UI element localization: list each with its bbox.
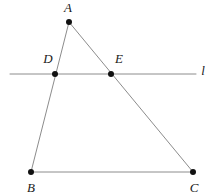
point-e-dot (108, 71, 114, 77)
point-b-dot (28, 169, 34, 175)
point-c-dot (190, 169, 196, 175)
geometry-figure: A B C D E l (0, 0, 214, 196)
point-a-dot (66, 19, 72, 25)
point-d-dot (52, 71, 58, 77)
segment-ac (69, 22, 193, 172)
label-point-e: E (114, 51, 123, 66)
label-point-c: C (190, 180, 199, 195)
segment-ab (31, 22, 69, 172)
geometry-canvas: A B C D E l (0, 0, 214, 196)
label-point-d: D (42, 51, 53, 66)
label-point-b: B (27, 180, 35, 195)
label-point-a: A (63, 0, 72, 15)
label-line-l: l (201, 63, 205, 78)
